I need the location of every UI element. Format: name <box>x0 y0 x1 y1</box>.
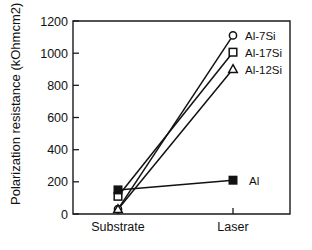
series-label-al-7si: Al-7Si <box>245 30 276 42</box>
chart-container: 0 200 400 600 800 1000 1200 Polarization… <box>0 0 312 250</box>
series-label-al-17si: Al-17Si <box>245 47 282 59</box>
y-axis-title: Polarization resistance (kOhmcm2) <box>8 3 23 205</box>
marker-al-laser <box>229 176 237 184</box>
marker-al-17si-laser <box>229 48 237 56</box>
marker-al-7si-laser <box>229 32 236 39</box>
marker-al-substrate <box>114 186 122 194</box>
x-category-label-laser: Laser <box>217 220 248 234</box>
series-label-al: Al <box>249 175 259 187</box>
x-category-label-substrate: Substrate <box>91 220 145 234</box>
y-tick-label-0: 0 <box>61 208 68 222</box>
y-tick-label-1200: 1200 <box>40 15 68 29</box>
y-tick-label-600: 600 <box>47 111 68 125</box>
polarization-resistance-line-chart: 0 200 400 600 800 1000 1200 Polarization… <box>0 0 312 250</box>
y-tick-label-400: 400 <box>47 143 68 157</box>
series-label-al-12si: Al-12Si <box>245 64 282 76</box>
y-tick-label-1000: 1000 <box>40 47 68 61</box>
y-tick-label-800: 800 <box>47 79 68 93</box>
y-tick-label-200: 200 <box>47 175 68 189</box>
